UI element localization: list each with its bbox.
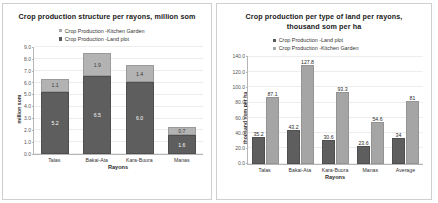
- chart-panel-right: Crop production per type of land per ray…: [216, 3, 432, 200]
- bar-value-label: 30.6: [323, 134, 333, 140]
- y-axis-tick-label: 20.0: [235, 145, 245, 151]
- bar-value-label: 1.1: [52, 82, 59, 88]
- bar-value-label: 93.3: [337, 86, 347, 92]
- y-axis-label-left: million som: [16, 94, 22, 123]
- bar-land-plot[interactable]: 34: [392, 138, 405, 164]
- bar-land-plot[interactable]: 30.6: [322, 140, 335, 164]
- stacked-bar[interactable]: 1.46.0: [126, 65, 154, 154]
- bar-kitchen-garden[interactable]: 93.3: [336, 92, 349, 164]
- y-axis-tick-label: 5.0: [24, 91, 31, 97]
- bar-land-plot[interactable]: 23.6: [357, 146, 370, 164]
- bar-value-label: 1.6: [178, 142, 185, 148]
- x-axis-left: TalasBakai-AtaKara-BuuraManas: [33, 157, 203, 163]
- bar-segment-kitchen[interactable]: 1.1: [41, 79, 69, 92]
- legend-label: Crop Production -Kitchen Garden: [65, 27, 145, 35]
- bar-value-label: 81: [410, 95, 416, 101]
- bar-segment-kitchen[interactable]: 1.9: [83, 53, 111, 76]
- charts-page: Crop production structure per rayons, mi…: [0, 0, 438, 203]
- bar-segment-kitchen[interactable]: 1.4: [126, 65, 154, 82]
- y-axis-tick-label: 3.0: [24, 115, 31, 121]
- stacked-bar[interactable]: 1.96.5: [83, 53, 111, 154]
- x-axis-tick-label: Kara-Buura: [317, 167, 352, 173]
- x-axis-tick-label: Talas: [247, 167, 282, 173]
- bar-group: 30.693.3: [322, 57, 349, 164]
- plot-area-right: thousand som per ha 140.0120.0100.080.06…: [217, 57, 431, 180]
- bar-segment-land[interactable]: 6.0: [126, 82, 154, 154]
- bar-segment-kitchen[interactable]: 0.7: [168, 127, 196, 135]
- bar-group: 3481: [392, 57, 419, 164]
- y-axis-tick-label: 4.0: [24, 103, 31, 109]
- legend-label: Crop Production -Kitchen Garden: [279, 44, 359, 52]
- bar-value-label: 1.9: [94, 62, 101, 68]
- y-axis-tick-label: 1.0: [24, 139, 31, 145]
- x-axis-tick-label: Manas: [161, 157, 204, 163]
- x-axis-tick-label: Bakai-Ata: [282, 167, 317, 173]
- y-axis-tick-label: 120.0: [232, 69, 245, 75]
- bar-segment-land[interactable]: 5.2: [41, 92, 69, 154]
- plot-area-left: million som 9.08.07.06.05.04.03.02.01.00…: [3, 47, 211, 170]
- legend-label: Crop Production -Land plot: [279, 36, 343, 44]
- x-axis-label-right: Rayons: [247, 174, 423, 180]
- x-axis-tick-label: Manas: [353, 167, 388, 173]
- y-axis-tick-label: 6.0: [24, 80, 31, 86]
- y-axis-tick-label: 60.0: [235, 115, 245, 121]
- x-axis-right: TalasBakai-AtaKara-BuuraManasAverage: [247, 167, 423, 173]
- y-axis-tick-label: 2.0: [24, 127, 31, 133]
- chart-legend-left: Crop Production -Kitchen Garden Crop Pro…: [3, 27, 211, 44]
- legend-item-land-plot: Crop Production -Land plot: [273, 36, 431, 44]
- x-axis-tick-label: Kara-Buura: [118, 157, 161, 163]
- y-axis-tick-label: 100.0: [232, 84, 245, 90]
- bar-kitchen-garden[interactable]: 87.1: [266, 97, 279, 164]
- bar-category: 3481: [388, 57, 423, 164]
- bar-series-container: 35.287.143.2127.830.693.323.654.63481: [248, 57, 423, 164]
- legend-label: Crop Production -Land plot: [65, 35, 129, 43]
- bar-value-label: 1.4: [136, 71, 143, 77]
- bar-value-label: 5.2: [52, 120, 59, 126]
- bar-kitchen-garden[interactable]: 81: [406, 101, 419, 163]
- bar-value-label: 6.5: [94, 112, 101, 118]
- bar-category: 1.15.2: [34, 47, 76, 154]
- legend-swatch-icon: [59, 29, 62, 32]
- y-axis-tick-label: 8.0: [24, 56, 31, 62]
- legend-item-kitchen-garden: Crop Production -Kitchen Garden: [273, 44, 431, 52]
- legend-swatch-icon: [273, 39, 276, 42]
- x-axis-tick-label: Average: [388, 167, 423, 173]
- bar-category: 23.654.6: [353, 57, 388, 164]
- x-axis-tick-label: Talas: [33, 157, 76, 163]
- bar-category: 1.96.5: [76, 47, 118, 154]
- stacked-bar[interactable]: 0.71.6: [168, 127, 196, 155]
- y-axis-tick-label: 140.0: [232, 53, 245, 59]
- bar-value-label: 43.2: [288, 124, 298, 130]
- bar-segment-land[interactable]: 6.5: [83, 76, 111, 154]
- chart-title-left: Crop production structure per rayons, mi…: [3, 4, 211, 22]
- bar-value-label: 35.2: [253, 131, 263, 137]
- bar-kitchen-garden[interactable]: 127.8: [301, 65, 314, 164]
- bar-category: 1.46.0: [119, 47, 161, 154]
- y-axis-tick-label: 80.0: [235, 99, 245, 105]
- plot-canvas-left: 9.08.07.06.05.04.03.02.01.00.01.15.21.96…: [33, 47, 203, 155]
- legend-swatch-icon: [273, 47, 276, 50]
- bar-group: 43.2127.8: [287, 57, 314, 164]
- bar-land-plot[interactable]: 43.2: [287, 130, 300, 163]
- y-axis-tick-label: 9.0: [24, 44, 31, 50]
- y-axis-tick-label: 40.0: [235, 130, 245, 136]
- bar-value-label: 54.6: [372, 116, 382, 122]
- legend-item-land-plot: Crop Production -Land plot: [59, 35, 211, 43]
- x-axis-label-left: Rayons: [33, 164, 203, 170]
- bar-value-label: 23.6: [358, 140, 368, 146]
- y-axis-tick-label: 0.0: [24, 151, 31, 157]
- bar-land-plot[interactable]: 35.2: [252, 137, 265, 164]
- y-axis-tick-label: 0.0: [238, 160, 245, 166]
- bar-value-label: 127.8: [301, 59, 314, 65]
- x-axis-tick-label: Bakai-Ata: [76, 157, 119, 163]
- stacked-bar[interactable]: 1.15.2: [41, 79, 69, 155]
- bar-series-container: 1.15.21.96.51.46.00.71.6: [34, 47, 203, 154]
- plot-canvas-right: 140.0120.0100.080.060.040.020.00.035.287…: [247, 57, 423, 165]
- y-axis-tick-label: 7.0: [24, 68, 31, 74]
- bar-category: 0.71.6: [161, 47, 203, 154]
- bar-kitchen-garden[interactable]: 54.6: [371, 122, 384, 164]
- bar-segment-land[interactable]: 1.6: [168, 135, 196, 154]
- bar-value-label: 6.0: [136, 115, 143, 121]
- legend-swatch-icon: [59, 37, 62, 40]
- bar-group: 23.654.6: [357, 57, 384, 164]
